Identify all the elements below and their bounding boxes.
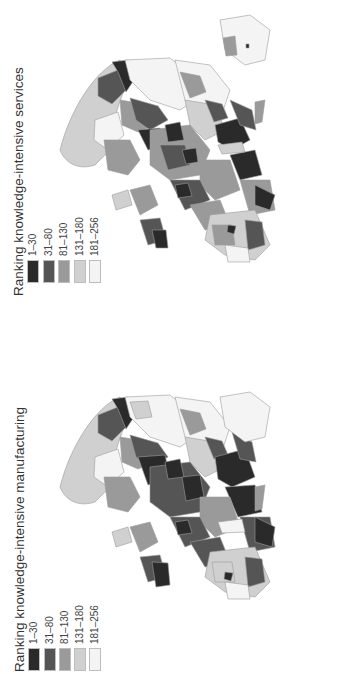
legend-label: 31–80 (43, 228, 54, 256)
legend-label: 181–256 (89, 217, 100, 256)
legend-label: 31–80 (44, 616, 55, 644)
map-region (255, 100, 265, 124)
legend-label: 81–130 (58, 223, 69, 256)
legend-label: 131–180 (74, 217, 85, 256)
choropleth-map-services (0, 0, 351, 337)
legend-title: Ranking knowledge-intensive manufacturin… (12, 407, 27, 672)
legend-label: 81–130 (59, 611, 70, 644)
map-region (165, 459, 184, 479)
map-region (255, 485, 265, 511)
legend-label: 1–30 (28, 622, 39, 644)
legend-swatch (89, 648, 101, 671)
map-region (112, 190, 132, 210)
map-region (152, 230, 168, 248)
legend-swatch (43, 260, 55, 283)
map-panel-manufacturing: Ranking knowledge-intensive manufacturin… (0, 337, 351, 674)
map-region (152, 562, 170, 587)
map-region (223, 36, 237, 56)
map-region (245, 220, 265, 250)
map-region (165, 122, 184, 142)
map-region (112, 527, 132, 547)
legend-swatch (27, 260, 39, 283)
legend-swatch (28, 648, 40, 671)
legend-label: 181–256 (89, 605, 100, 644)
legend-title: Ranking knowledge-intensive services (11, 67, 26, 296)
map-region (104, 477, 140, 512)
legend-swatch (74, 260, 86, 283)
map-region (225, 582, 250, 599)
legend-swatch (59, 648, 71, 671)
legend-swatch (58, 260, 70, 283)
map-region (246, 44, 249, 48)
legend-swatch (74, 648, 86, 671)
legend-label: 131–180 (74, 605, 85, 644)
map-panel-services: Ranking knowledge-intensive services 1–3… (0, 0, 351, 337)
map-regions (60, 392, 275, 599)
map-region (225, 245, 250, 262)
legend-swatch (44, 648, 56, 671)
legend-swatch (89, 260, 101, 283)
map-region (130, 522, 158, 552)
legend-label: 1–30 (27, 234, 38, 256)
map-region (245, 557, 265, 587)
map-region (104, 140, 140, 175)
map-region (130, 185, 158, 215)
